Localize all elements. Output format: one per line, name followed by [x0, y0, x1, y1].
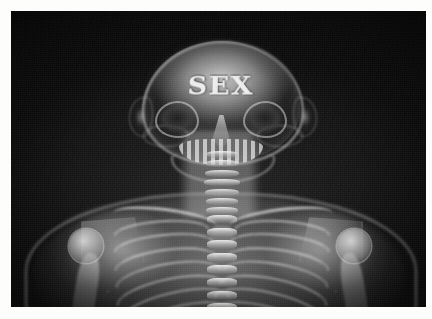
- skull-text-label: SEX: [187, 71, 255, 100]
- eye-socket-left: [157, 103, 197, 136]
- thoracic-vertebra: [207, 240, 237, 249]
- xray-subject: SEX: [11, 11, 426, 307]
- cervical-vertebra: [206, 160, 239, 167]
- xray-image: SEX: [11, 11, 426, 307]
- thoracic-vertebra: [207, 291, 237, 300]
- cervical-vertebra: [206, 207, 237, 214]
- cervical-vertebra: [206, 151, 237, 158]
- thoracic-vertebra: [207, 303, 237, 307]
- photo-frame: SEX: [0, 0, 432, 319]
- cervical-vertebra: [204, 179, 240, 186]
- eye-socket-right: [245, 103, 285, 136]
- cervical-vertebra: [205, 170, 239, 177]
- skull-text-overlay: SEX: [142, 68, 300, 102]
- cervical-spine: [204, 151, 240, 217]
- thoracic-vertebra: [207, 253, 237, 262]
- cervical-vertebra: [206, 198, 239, 205]
- humeral-head-right: [337, 229, 371, 263]
- cervical-vertebra: [205, 189, 239, 196]
- thoracic-vertebra: [207, 265, 237, 274]
- thoracic-vertebra: [207, 278, 237, 287]
- humeral-head-left: [69, 229, 103, 263]
